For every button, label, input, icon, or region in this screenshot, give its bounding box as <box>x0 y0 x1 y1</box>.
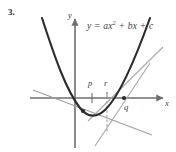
parabola-curve <box>42 18 150 116</box>
point-label-r: r <box>104 79 107 88</box>
tangent-line-at-r <box>95 63 150 146</box>
parabola-figure: 3. y = ax2 + bx + c y <box>0 0 176 152</box>
point-marker-left <box>81 109 85 113</box>
equation-prefix: y = ax <box>87 21 113 31</box>
equation-suffix: + bx + c <box>116 21 153 31</box>
point-label-p: p <box>88 79 92 88</box>
y-axis-label: y <box>68 11 72 20</box>
equation-label: y = ax2 + bx + c <box>87 22 153 32</box>
point-marker-q <box>122 96 126 100</box>
x-axis-label: x <box>165 99 169 108</box>
point-label-q: q <box>124 103 128 112</box>
